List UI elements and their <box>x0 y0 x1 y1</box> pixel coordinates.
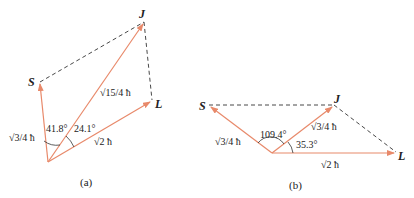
angle-s-j: 41.8° <box>46 123 68 134</box>
magnitude-j: √15/4 ħ <box>100 87 131 98</box>
angle-arc-j-l <box>288 142 293 153</box>
magnitude-l: √2 ħ <box>321 159 339 170</box>
caption-b: (b) <box>289 179 302 192</box>
dashed-line-s-j <box>40 22 144 82</box>
label-s: S <box>28 75 35 89</box>
vector-addition-diagram: S J L √3/4 ħ √15/4 ħ √2 ħ 41.8° 24.1° (a… <box>0 0 414 198</box>
angle-j-l: 24.1° <box>74 123 96 134</box>
magnitude-l: √2 ħ <box>94 136 112 147</box>
label-l: L <box>397 149 405 163</box>
magnitude-s: √3/4 ħ <box>215 136 241 147</box>
label-s: S <box>199 99 206 113</box>
panel-a: S J L √3/4 ħ √15/4 ħ √2 ħ 41.8° 24.1° (a… <box>9 7 162 189</box>
label-l: L <box>154 97 162 111</box>
dashed-line-j-l <box>334 105 396 152</box>
angle-s-j: 109.4° <box>260 129 287 140</box>
label-j: J <box>333 92 341 106</box>
panel-b: S J L √3/4 ħ √3/4 ħ √2 ħ 109.4° 35.3° (b… <box>199 92 405 192</box>
magnitude-s: √3/4 ħ <box>9 132 35 143</box>
caption-a: (a) <box>80 176 93 189</box>
magnitude-j: √3/4 ħ <box>311 121 337 132</box>
angle-j-l: 35.3° <box>296 139 318 150</box>
label-j: J <box>138 7 146 21</box>
dashed-line-j-l <box>144 22 152 100</box>
angle-arc-j-l <box>66 136 74 147</box>
